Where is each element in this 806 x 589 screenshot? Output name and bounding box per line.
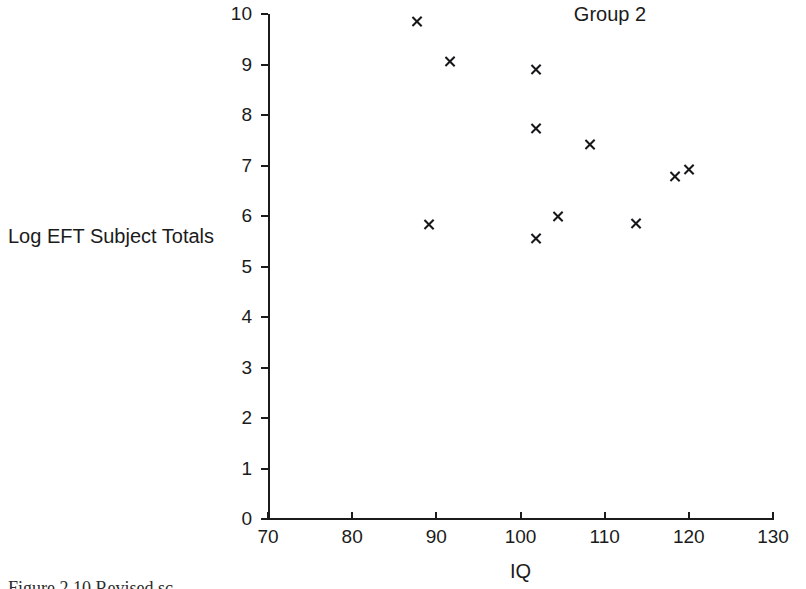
y-tick-label: 7	[212, 156, 252, 175]
figure-caption: Figure 2.10 Revised sc	[8, 578, 173, 589]
y-tick-mark	[261, 215, 268, 217]
x-tick-label: 100	[491, 527, 551, 546]
x-tick-label: 130	[743, 527, 803, 546]
y-tick-label: 10	[212, 4, 252, 23]
scatter-plot-figure: Group 2 Log EFT Subject Totals IQ 012345…	[0, 0, 806, 589]
y-tick-mark	[261, 266, 268, 268]
y-tick-label: 3	[212, 358, 252, 377]
y-tick-label: 2	[212, 408, 252, 427]
y-tick-label: 5	[212, 257, 252, 276]
y-tick-mark	[261, 367, 268, 369]
y-tick-mark	[261, 316, 268, 318]
y-tick-label: 8	[212, 105, 252, 124]
y-tick-label: 0	[212, 509, 252, 528]
y-tick-mark	[261, 114, 268, 116]
x-tick-label: 90	[406, 527, 466, 546]
x-axis-title: IQ	[268, 560, 773, 582]
x-tick-label: 110	[575, 527, 635, 546]
x-tick-label: 70	[238, 527, 298, 546]
y-tick-mark	[261, 64, 268, 66]
y-tick-label: 4	[212, 307, 252, 326]
y-tick-label: 6	[212, 206, 252, 225]
x-tick-label: 120	[659, 527, 719, 546]
y-tick-mark	[261, 165, 268, 167]
y-tick-label: 1	[212, 459, 252, 478]
y-tick-mark	[261, 468, 268, 470]
y-tick-mark	[261, 13, 268, 15]
plot-data-area	[268, 14, 773, 519]
y-tick-label: 9	[212, 55, 252, 74]
y-axis-title: Log EFT Subject Totals	[8, 225, 214, 247]
y-tick-mark	[261, 417, 268, 419]
x-tick-label: 80	[322, 527, 382, 546]
